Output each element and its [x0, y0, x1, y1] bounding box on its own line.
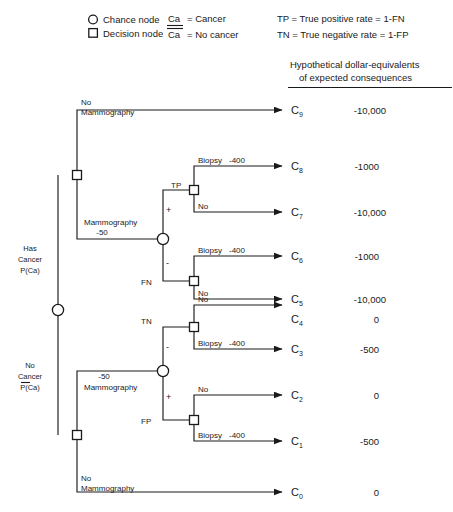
tp-fn-chance-node[interactable] [157, 233, 168, 244]
branch-no-mammography-cancer[interactable] [77, 110, 282, 171]
outcome-label: C [291, 343, 299, 355]
cancer-decision-node[interactable] [73, 171, 82, 180]
outcome-label: C [291, 313, 299, 325]
nocancer-decision-node[interactable] [73, 431, 82, 440]
root-lower-label-line2: Cancer [18, 372, 43, 381]
root-lower-label-line1: No [25, 361, 35, 370]
legend-ca-definition: = Cancer [187, 13, 226, 24]
legend-noca-term: Ca [168, 29, 181, 40]
tn-sign-minus: - [166, 342, 169, 352]
outcome-subscript: 9 [299, 111, 303, 118]
outcome-value: 0 [374, 390, 379, 401]
mammo-top-label-line1: Mammography [84, 218, 137, 227]
branch-tp-biopsy[interactable] [194, 166, 282, 186]
fp-sign-plus: + [166, 392, 171, 402]
outcome-subscript: 7 [299, 213, 303, 220]
fn-biopsy-label: Biopsy [198, 246, 222, 255]
fp-biopsy-cost: -400 [229, 431, 246, 440]
legend-chance-icon [89, 15, 98, 24]
outcome-value: 0 [374, 314, 379, 325]
outcome-row: C 9 -10,000 [291, 104, 386, 118]
outcome-subscript: 3 [299, 350, 303, 357]
outcome-row: C 6 -1000 [291, 250, 379, 264]
outcome-subscript: 2 [299, 396, 303, 403]
outcome-label: C [291, 250, 299, 262]
root-upper-label-line1: Has [23, 244, 37, 253]
outcome-value: -1000 [355, 251, 379, 262]
outcome-label: C [291, 293, 299, 305]
branch-fp-no-biopsy[interactable] [194, 395, 282, 416]
consequences-header-line2: of expected consequences [299, 72, 412, 83]
no-mammo-top-label-line1: No [81, 98, 92, 107]
outcome-label: C [291, 389, 299, 401]
legend-tp-definition: TP = True positive rate = 1-FN [277, 13, 405, 24]
outcome-row: C 7 -10,000 [291, 206, 386, 220]
outcome-value: 0 [374, 487, 379, 498]
outcome-row: C 1 -500 [291, 435, 379, 449]
fp-no-label: No [198, 385, 209, 394]
tp-no-label: No [198, 202, 209, 211]
tp-sign-plus: + [166, 205, 171, 215]
tn-biopsy-label: Biopsy [198, 339, 222, 348]
legend-tn-definition: TN = True negative rate = 1-FP [277, 29, 408, 40]
legend-chance-label: Chance node [103, 14, 160, 25]
branch-tn-no-biopsy[interactable] [194, 305, 282, 323]
tn-no-label: No [198, 295, 209, 304]
legend-decision-icon [89, 29, 98, 38]
outcome-subscript: 4 [299, 320, 303, 327]
branch-fn-biopsy[interactable] [194, 256, 282, 277]
fp-biopsy-label: Biopsy [198, 431, 222, 440]
outcome-row: C 0 0 [291, 486, 379, 500]
fn-sign-minus: - [166, 258, 169, 268]
no-mammo-bot-label-line1: No [81, 474, 92, 483]
outcome-value: -10,000 [354, 207, 386, 218]
fn-label: FN [141, 278, 152, 287]
outcome-subscript: 0 [299, 493, 303, 500]
no-mammo-bot-label-line2: Mammography [81, 484, 134, 493]
root-lower-label-line3: P(Ca) [20, 383, 40, 392]
outcome-subscript: 5 [299, 300, 303, 307]
fp-label: FP [141, 417, 151, 426]
fn-decision-node[interactable] [190, 277, 199, 286]
tp-decision-node[interactable] [190, 186, 199, 195]
outcome-value: -500 [360, 436, 379, 447]
legend-decision-label: Decision node [103, 28, 163, 39]
outcome-subscript: 6 [299, 257, 303, 264]
tp-label: TP [171, 181, 181, 190]
root-chance-node[interactable] [52, 304, 63, 315]
outcome-subscript: 8 [299, 167, 303, 174]
outcome-row: C 8 -1000 [291, 160, 379, 174]
branch-mammography-cancer[interactable] [77, 180, 157, 240]
outcome-label: C [291, 104, 299, 116]
outcome-value: -10,000 [354, 294, 386, 305]
tn-fp-chance-node[interactable] [157, 365, 168, 376]
outcome-row: C 3 -500 [291, 343, 379, 357]
outcome-label: C [291, 206, 299, 218]
outcome-value: -10,000 [354, 105, 386, 116]
decision-tree-figure: Chance node Decision node Ca = Cancer Ca… [0, 0, 453, 512]
outcome-subscript: 1 [299, 442, 303, 449]
consequences-header-line1: Hypothetical dollar-equivalents [290, 59, 420, 70]
outcome-value: -1000 [355, 161, 379, 172]
outcome-label: C [291, 486, 299, 498]
outcome-label: C [291, 435, 299, 447]
mammo-bot-label-line2: Mammography [84, 383, 137, 392]
root-upper-label-line3: P(Ca) [20, 266, 40, 275]
decision-tree-canvas: Chance node Decision node Ca = Cancer Ca… [0, 0, 453, 512]
outcome-value: -500 [360, 344, 379, 355]
outcome-row: C 5 -10,000 [291, 293, 386, 307]
no-mammo-top-label-line2: Mammography [81, 108, 134, 117]
outcome-label: C [291, 160, 299, 172]
tp-biopsy-cost: -400 [229, 156, 246, 165]
legend-ca-term: Ca [168, 13, 181, 24]
fp-decision-node[interactable] [190, 416, 199, 425]
outcome-row: C 4 0 [291, 313, 379, 327]
mammo-top-label-line2: -50 [96, 228, 108, 237]
outcome-row: C 2 0 [291, 389, 379, 403]
fn-biopsy-cost: -400 [229, 246, 246, 255]
tn-decision-node[interactable] [190, 323, 199, 332]
tn-label: TN [141, 317, 152, 326]
tn-biopsy-cost: -400 [229, 339, 246, 348]
tp-biopsy-label: Biopsy [198, 156, 222, 165]
legend-noca-definition: = No cancer [187, 29, 239, 40]
